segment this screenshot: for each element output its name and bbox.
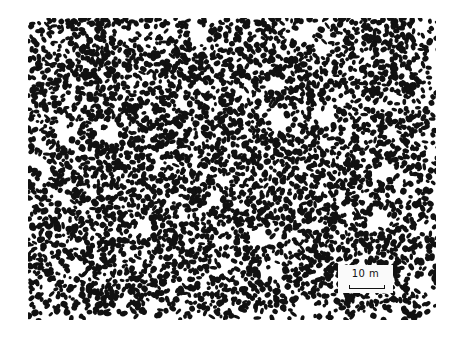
scale-bar-line bbox=[349, 285, 385, 289]
scale-bar-box: 10 m bbox=[338, 265, 393, 293]
scale-bar-label: 10 m bbox=[338, 268, 393, 279]
